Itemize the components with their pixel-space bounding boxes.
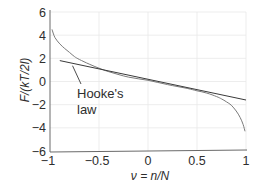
y-tick-labels: 6420−2−4−6 [32,6,46,159]
y-axis-label: F/(kT/2l) [18,58,32,103]
x-tick-labels: −1−0.500.51 [41,154,250,168]
y-tick-label: 0 [39,75,46,89]
x-tick-label: 1 [243,154,250,168]
x-tick-label: 0.5 [188,154,205,168]
x-axis [50,150,247,152]
y-tick-label: −2 [32,98,46,112]
x-axis-label: ν = n/N [131,169,170,183]
force-extension-chart: 6420−2−4−6 −1−0.500.51 Hooke's law ν = n… [0,0,259,192]
x-tick-label: 0 [145,154,152,168]
annotation-law: law [77,102,97,117]
y-tick-label: 2 [39,52,46,66]
y-tick-label: 6 [39,6,46,20]
y-tick-label: 4 [39,29,46,43]
y-tick-label: −4 [32,121,46,135]
x-tick-label: −0.5 [85,154,110,168]
x-tick-label: −1 [41,154,55,168]
annotation-hookes: Hooke's [77,86,124,101]
